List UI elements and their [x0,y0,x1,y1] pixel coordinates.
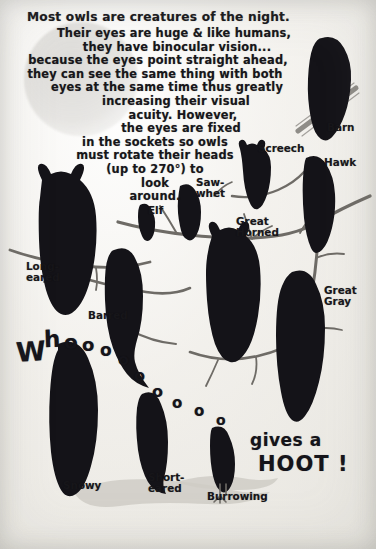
ground-snow-right [176,476,278,490]
call-letter-o8: o [194,402,204,420]
call-letter-o2: o [82,334,94,355]
hoot-text: HOOT ! [258,452,349,476]
owl-label-barred: Barred [88,310,128,321]
owl-label-hawk: Hawk [324,157,356,168]
owl-label-saw-whet: Saw- whet [196,177,225,199]
branch-great-horned [190,338,300,359]
owl-great-gray [276,271,325,422]
call-letter-o9: o [216,412,226,428]
call-letter-o7: o [172,394,182,412]
gives-a-text: gives a [250,430,322,450]
call-letter-o5: o [134,366,145,385]
branch-barred [62,272,190,293]
body-line-1: Their eyes are huge & like humans, [0,27,310,41]
owl-label-short-eared: Short- eared [148,472,184,494]
call-letter-o4: o [118,350,129,369]
body-line-5: eyes at the same time thus greatly [0,81,310,95]
owl-snowy [49,342,98,496]
owl-label-screech: Screech [258,143,304,154]
owl-label-snowy: Snowy [63,480,101,491]
call-letter-o6: o [152,382,163,401]
call-letter-h: h [44,326,61,353]
owl-label-burrowing: Burrowing [207,491,268,502]
branch-gh-twig [206,357,257,386]
branch-twig-c [300,214,314,233]
owl-label-great-gray: Great Gray [324,285,357,307]
branch-small-left [130,330,176,344]
owl-label-long-eared: Long- eared [26,261,60,283]
body-line-13: around. [0,190,310,204]
call-letter-W: W [15,335,47,368]
owl-label-barn: Barn [327,122,354,133]
owl-label-elf: Elf [148,205,163,216]
body-line-6: increasing their visual [0,95,310,109]
branch-right-twig1 [316,254,344,259]
body-copy: Their eyes are huge & like humans, they … [0,27,310,204]
page-title: Most owls are creatures of the night. [27,10,290,24]
branch-right-twig2 [310,328,342,330]
owl-label-great-horned: Great Horned [236,216,279,238]
call-letter-o1: o [64,330,78,354]
body-line-11: (up to 270°) to [0,163,310,177]
branch-right-vertical [308,196,318,368]
owl-great-horned [206,222,261,363]
body-line-3: because the eyes point straight ahead, [0,54,310,68]
owl-poster: Most owls are creatures of the night. Th… [0,0,376,549]
call-letter-o3: o [100,340,112,360]
owl-burrowing [210,427,235,493]
body-line-8: the eyes are fixed [0,122,310,136]
